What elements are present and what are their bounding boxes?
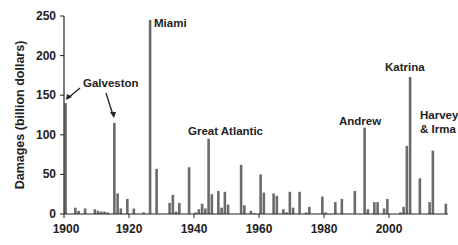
- bar: [64, 103, 67, 214]
- y-tick-label: 150: [36, 88, 56, 102]
- annotation-irma: & Irma: [420, 123, 456, 135]
- bar: [386, 199, 389, 214]
- bar-series: [64, 20, 447, 214]
- bar: [383, 208, 386, 214]
- annotation-katrina: Katrina: [385, 61, 425, 73]
- bar: [419, 178, 422, 214]
- bar: [298, 192, 301, 214]
- bar: [341, 199, 344, 214]
- bar: [240, 165, 243, 214]
- y-tick-label: 0: [49, 207, 56, 221]
- arrow-head: [110, 112, 116, 118]
- bar: [259, 174, 262, 214]
- bar: [321, 197, 324, 214]
- bar: [263, 193, 266, 214]
- bar: [201, 204, 204, 214]
- bar: [188, 167, 191, 214]
- x-tick-label: 1980: [311, 222, 338, 236]
- bar: [289, 192, 292, 214]
- bar: [224, 192, 227, 214]
- bar: [217, 191, 220, 214]
- bar: [113, 123, 116, 214]
- bar: [84, 208, 87, 214]
- x-tick-label: 2000: [376, 222, 403, 236]
- bar: [74, 208, 77, 214]
- arrow-galveston-1915: [106, 93, 113, 115]
- bar: [334, 202, 337, 214]
- bar: [432, 151, 435, 214]
- bar: [94, 209, 97, 214]
- bar: [133, 208, 136, 214]
- x-tick-label: 1940: [181, 222, 208, 236]
- bar: [409, 77, 412, 214]
- bar: [126, 199, 129, 214]
- bar: [276, 196, 279, 214]
- bar: [168, 203, 171, 214]
- y-tick-label: 100: [36, 128, 56, 142]
- y-tick-label: 50: [43, 167, 57, 181]
- bar: [149, 20, 152, 214]
- bar: [172, 195, 175, 214]
- bar: [120, 208, 123, 214]
- bar: [211, 194, 214, 214]
- bar: [373, 202, 376, 214]
- bar: [376, 202, 379, 214]
- annotations: Galveston Miami Great Atlantic Andrew Ka…: [66, 17, 458, 137]
- x-tick-label: 1900: [53, 222, 80, 236]
- bar: [178, 203, 181, 214]
- y-tick-label: 200: [36, 49, 56, 63]
- bar: [445, 204, 448, 214]
- bar: [308, 207, 311, 214]
- bar: [243, 205, 246, 214]
- bar: [116, 193, 119, 214]
- annotation-harvey: Harvey: [420, 109, 458, 121]
- bar: [272, 193, 275, 214]
- bar: [207, 139, 210, 214]
- annotation-great-atlantic: Great Atlantic: [188, 125, 264, 137]
- x-tick-label: 1960: [246, 222, 273, 236]
- bar: [220, 208, 223, 214]
- hurricane-damages-chart: 0 50 100 150 200 250 1900 1920 1940 1960…: [0, 0, 458, 245]
- y-ticks: 0 50 100 150 200 250: [36, 9, 64, 221]
- bar: [204, 208, 207, 214]
- bar: [198, 209, 201, 214]
- bar: [428, 202, 431, 214]
- annotation-miami: Miami: [154, 17, 187, 29]
- bar: [406, 146, 409, 214]
- y-tick-label: 250: [36, 9, 56, 23]
- bar: [354, 191, 357, 214]
- bar: [282, 209, 285, 214]
- x-ticks: 1900 1920 1940 1960 1980 2000: [53, 214, 403, 236]
- annotation-andrew: Andrew: [339, 115, 381, 127]
- bar: [292, 208, 295, 214]
- bar: [155, 169, 158, 214]
- bar: [363, 128, 366, 214]
- x-tick-label: 1920: [116, 222, 143, 236]
- bar: [402, 207, 405, 214]
- annotation-galveston: Galveston: [83, 77, 139, 89]
- y-axis-label: Damages (billion dollars): [13, 41, 27, 190]
- bar: [227, 205, 230, 215]
- bar: [367, 209, 370, 214]
